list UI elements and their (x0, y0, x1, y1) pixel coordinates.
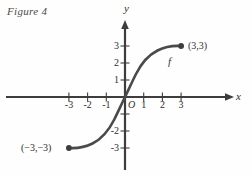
endpoint-dot-upper (178, 43, 184, 49)
x-axis-label: x (236, 90, 241, 102)
origin-label: O (128, 99, 135, 110)
x-tick-label-neg1: -1 (99, 99, 113, 110)
x-tick-label-1: 1 (141, 99, 147, 110)
point-label-upper: (3,3) (188, 40, 207, 51)
y-tick-label-1: 1 (111, 74, 119, 85)
x-tick-label-neg2: -2 (81, 99, 95, 110)
figure-screenshot: Figure 4 (0, 0, 252, 176)
y-tick-label-neg2: -2 (104, 125, 119, 136)
x-axis (6, 93, 234, 101)
y-tick-label-neg3: -3 (104, 142, 119, 153)
curve-name-label: f (168, 55, 171, 67)
y-tick-label-3: 3 (111, 40, 119, 51)
x-tick-label-3: 3 (178, 99, 184, 110)
x-tick-label-2: 2 (159, 99, 165, 110)
point-label-lower: (−3,−3) (21, 142, 51, 153)
y-axis-label: y (124, 2, 129, 14)
x-tick-label-neg3: -3 (62, 99, 76, 110)
endpoint-dot-lower (66, 145, 72, 151)
y-tick-label-2: 2 (111, 57, 119, 68)
